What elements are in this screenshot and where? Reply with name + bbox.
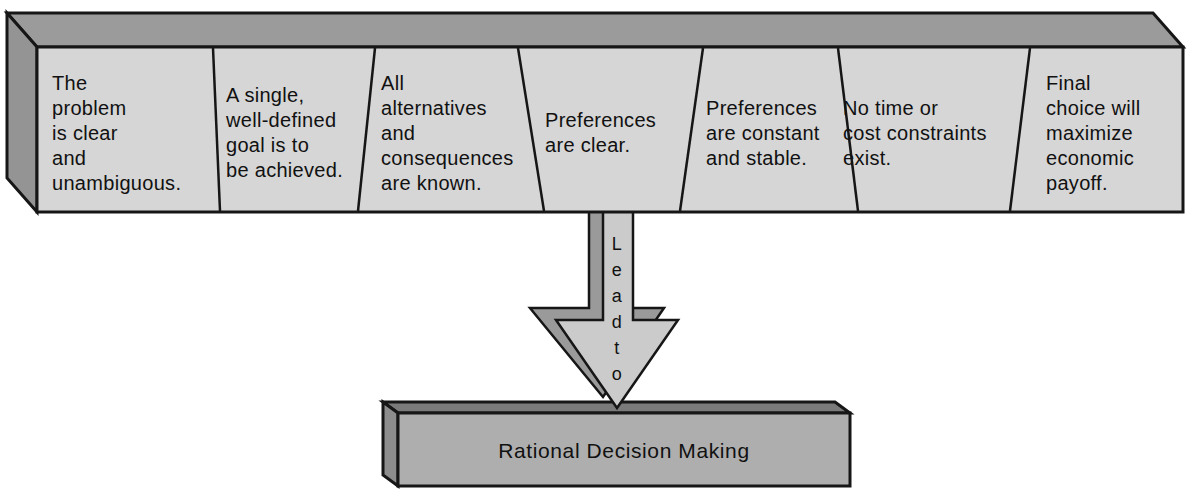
beam-left-face <box>7 13 37 212</box>
assumption-text-6: No time or cost constraints exist. <box>843 48 1015 212</box>
result-box-left-face <box>383 402 398 486</box>
assumption-text-4: Preferences are clear. <box>545 48 677 212</box>
result-box-label: Rational Decision Making <box>398 413 850 486</box>
assumption-text-7: Final choice will maximize economic payo… <box>1046 48 1181 212</box>
beam-top-face <box>7 13 1183 47</box>
assumption-text-2: A single, well-defined goal is to be ach… <box>226 48 368 212</box>
rational-decision-making-diagram: The problem is clear and unambiguous. A … <box>0 0 1188 495</box>
assumption-text-5: Preferences are constant and stable. <box>706 48 846 212</box>
assumption-text-1: The problem is clear and unambiguous. <box>52 48 212 212</box>
lead-to-label: L e a d t o <box>593 231 641 387</box>
assumption-text-3: All alternatives and consequences are kn… <box>381 48 526 212</box>
